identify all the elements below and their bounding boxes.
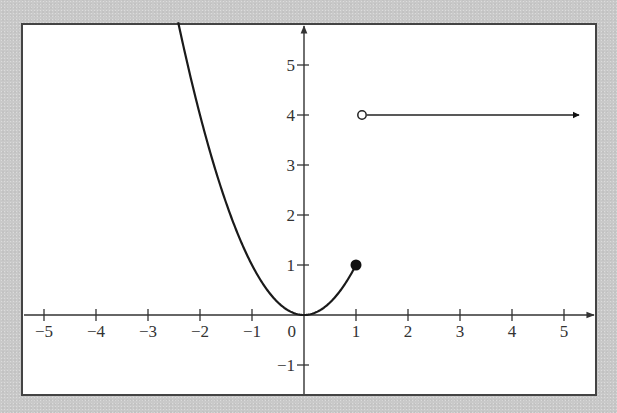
x-tick-label: −4 (87, 322, 106, 341)
x-tick-label: −2 (191, 322, 209, 341)
y-tick-label: 3 (287, 156, 296, 175)
x-tick-label: −5 (35, 322, 53, 341)
x-tick-label: −1 (243, 322, 261, 341)
y-tick-label: 2 (287, 206, 296, 225)
x-tick-label: 3 (456, 322, 465, 341)
x-tick-label: 5 (560, 322, 569, 341)
y-tick-label: 1 (287, 256, 296, 275)
piecewise-function-graph: −5−4−3−2−112345−1123450 (0, 0, 617, 413)
x-tick-label: −3 (139, 322, 157, 341)
x-tick-label: 4 (508, 322, 517, 341)
y-tick-label: −1 (277, 356, 295, 375)
x-tick-label: 2 (404, 322, 413, 341)
x-tick-label: 1 (352, 322, 361, 341)
origin-label: 0 (288, 322, 297, 341)
closed-endpoint-dot (351, 260, 362, 271)
y-tick-label: 5 (287, 56, 296, 75)
open-endpoint-circle (358, 111, 366, 119)
y-tick-label: 4 (287, 106, 296, 125)
